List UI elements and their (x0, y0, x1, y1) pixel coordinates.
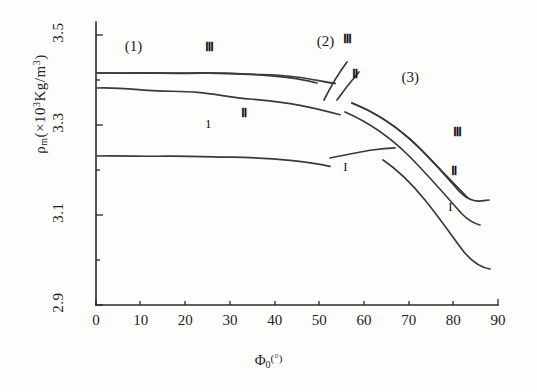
curve-label: 1 (205, 116, 212, 132)
x-tick-label: 10 (128, 312, 154, 329)
curve-group2-III-transition (324, 62, 347, 100)
curve-group1-III (97, 73, 335, 84)
region-label: (3) (402, 69, 420, 86)
y-tick-label: 3.3 (50, 103, 67, 143)
curve-group1-I (97, 156, 330, 167)
region-label: (2) (317, 33, 335, 50)
y-axis-title-sub: m (38, 137, 49, 145)
x-tick-label: 60 (351, 312, 377, 329)
y-tick-label: 3.5 (50, 13, 67, 53)
curve-label: Ⅲ (343, 31, 351, 47)
x-axis-title-unit: (°) (271, 352, 283, 364)
y-axis-title-mid: Kg/m (32, 65, 48, 101)
curve-label: Ⅲ (453, 124, 461, 140)
curve-group3-III (352, 103, 489, 201)
curve-group3-I-descending (383, 160, 490, 269)
y-axis-title-exp: 3 (31, 101, 42, 107)
x-tick-label: 70 (396, 312, 422, 329)
x-tick-label: 50 (306, 312, 332, 329)
curve-label: Ⅱ (451, 163, 456, 179)
x-tick-marks (96, 299, 498, 305)
curve-label: Ⅱ (352, 66, 357, 82)
y-axis-title-exp2: 3 (31, 60, 42, 66)
chart-figure: ρm(×103Kg/m3) Φ0(°) 2.93.13.33.501020304… (0, 0, 537, 392)
x-axis-title-phi: Φ (255, 352, 266, 368)
x-tick-label: 20 (172, 312, 198, 329)
x-tick-label: 30 (217, 312, 243, 329)
x-tick-label: 40 (262, 312, 288, 329)
curve-label: Ⅲ (205, 39, 213, 55)
y-tick-label: 2.9 (50, 283, 67, 323)
x-tick-label: 0 (83, 312, 109, 329)
y-axis-title-rho: ρ (32, 146, 48, 154)
curve-label: Ⅱ (241, 105, 246, 121)
curve-group3-I-plateau (330, 148, 395, 158)
y-axis-title-open: (×10 (32, 107, 48, 137)
y-axis-title-close: ) (32, 54, 48, 60)
x-axis-title: Φ0(°) (0, 352, 537, 370)
y-tick-label: 3.1 (50, 193, 67, 233)
x-tick-label: 90 (485, 312, 511, 329)
curve-label: I (343, 159, 347, 175)
region-label: (1) (125, 38, 143, 55)
y-tick-marks (96, 35, 103, 305)
curve-group1-II (97, 88, 340, 115)
curve-label: I (448, 199, 452, 215)
x-tick-label: 80 (440, 312, 466, 329)
y-axis-title: ρm(×103Kg/m3) (31, 0, 49, 214)
chart-canvas (0, 0, 537, 392)
curve-group1-III-main (97, 73, 317, 83)
